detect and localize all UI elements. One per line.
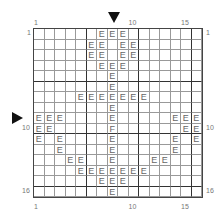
grid-cell: E [118,176,129,187]
grid-cell [118,155,129,166]
grid-cell: E [87,92,98,103]
grid-cell [118,113,129,124]
grid-cell: E [108,176,119,187]
grid-cell [76,71,87,82]
grid-cell: E [192,124,203,135]
grid-cell [108,50,119,61]
grid-cell [118,187,129,198]
grid-cell: E [97,40,108,51]
grid-cell [55,166,66,177]
chart-grid: EEEEEEEEEEEEEEEEEEEEEEEEEEEEEEEEEFEEEEEE… [33,28,203,198]
grid-cell [45,71,56,82]
grid-cell [160,61,171,72]
grid-cell [181,82,192,93]
grid-cell: E [129,166,140,177]
grid-cell [34,145,45,156]
grid-cell [192,176,203,187]
grid-cell [55,92,66,103]
grid-cell: E [34,134,45,145]
grid-cell: E [181,113,192,124]
grid-cell: E [34,124,45,135]
grid-cell [139,155,150,166]
grid-cell [129,113,140,124]
grid-cell: E [171,134,182,145]
grid-cell [118,103,129,114]
grid-cell [45,176,56,187]
grid-cell: E [55,113,66,124]
grid-cell [150,71,161,82]
grid-cell: E [171,145,182,156]
grid-cell [34,155,45,166]
grid-cell [139,71,150,82]
grid-cell: E [139,166,150,177]
grid-cell [139,40,150,51]
column-label-bottom: 10 [129,203,137,210]
grid-cell [97,155,108,166]
grid-cell [34,92,45,103]
grid-cell: F [108,124,119,135]
grid-cell [150,40,161,51]
grid-cell [118,124,129,135]
grid-cell: E [108,166,119,177]
grid-cell [55,176,66,187]
grid-cell [87,103,98,114]
grid-cell [160,134,171,145]
grid-cell [192,103,203,114]
grid-cell: E [108,61,119,72]
grid-cell [171,92,182,103]
grid-cell [55,103,66,114]
grid-cell [97,134,108,145]
grid-cell: E [108,29,119,40]
grid-cell [171,176,182,187]
grid-cell [45,40,56,51]
column-label-top: 15 [181,19,189,26]
grid-cell [66,29,77,40]
grid-cell [171,82,182,93]
grid-cell [129,187,140,198]
grid-cell: E [129,92,140,103]
grid-cell [45,103,56,114]
grid-cell [150,103,161,114]
grid-cell: E [97,61,108,72]
grid-cell: E [55,145,66,156]
grid-cell [34,29,45,40]
grid-cell [87,187,98,198]
grid-cell: E [150,155,161,166]
grid-cell [150,113,161,124]
grid-cell [181,155,192,166]
grid-cell [45,61,56,72]
grid-cell [97,113,108,124]
grid-cell [45,82,56,93]
grid-cell [150,187,161,198]
grid-cell [192,61,203,72]
grid-cell: E [108,92,119,103]
grid-cell [55,71,66,82]
grid-cell [66,113,77,124]
grid-cell [34,40,45,51]
grid-cell [150,134,161,145]
grid-cell [160,82,171,93]
row-label-right: 16 [206,187,214,194]
grid-cell [45,145,56,156]
grid-cell: E [97,166,108,177]
grid-cell [97,71,108,82]
grid-cell: E [97,50,108,61]
grid-cell: E [76,92,87,103]
row-label-left: 10 [22,124,30,131]
grid-cell [76,176,87,187]
grid-cell: E [192,134,203,145]
grid-cell: E [160,155,171,166]
grid-cell [45,50,56,61]
grid-cell [87,176,98,187]
grid-cell: E [87,166,98,177]
grid-cell [76,187,87,198]
grid-cell [97,103,108,114]
grid-cell [171,155,182,166]
grid-cell [97,145,108,156]
grid-cell [55,40,66,51]
grid-cell [87,113,98,124]
grid-cell: E [108,103,119,114]
grid-cell [66,103,77,114]
grid-cell: E [139,92,150,103]
grid-cell [192,29,203,40]
